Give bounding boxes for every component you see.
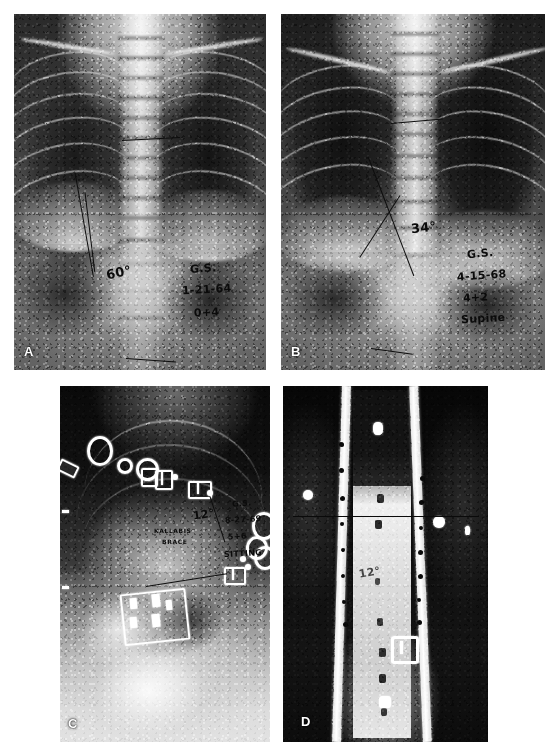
brace-left-tick-2 <box>62 586 69 589</box>
panel-b-initials: G.S. <box>466 246 494 263</box>
brace-divider-1 <box>161 471 163 485</box>
brace-buckle-slot-1 <box>129 598 137 610</box>
panel-d-date: 9-24-69 <box>426 575 454 583</box>
panel-a-initials: G.S. <box>190 261 217 278</box>
brace-divider-2 <box>197 482 199 494</box>
brace-dot-4 <box>245 564 251 570</box>
panel-b[interactable]: 34° G.S. 4-15-68 4+2 Supine B <box>281 14 545 370</box>
panel-d-image: 12° G.S. 9-24-69 D <box>283 386 488 742</box>
panel-b-image: 34° G.S. 4-15-68 4+2 Supine B <box>281 14 545 370</box>
film-grain <box>283 386 488 742</box>
panel-d[interactable]: 12° G.S. 9-24-69 D <box>283 386 488 742</box>
panel-d-initials: G.S. <box>429 564 444 572</box>
panel-c-brace-label-line1: KALLABIS <box>154 527 192 535</box>
brace-buckle-slot-4 <box>151 614 160 628</box>
panel-c-position: SITTING <box>224 548 263 561</box>
panel-b-angle-label: 34° <box>410 218 437 238</box>
brace-ring-2 <box>117 458 133 474</box>
panel-c-image: 12° KALLABIS BRACE G.S. 8-27-69 5+6 SITT… <box>60 386 270 742</box>
brace-divider-3 <box>232 568 234 580</box>
panel-a-letter: A <box>24 344 33 359</box>
panel-c-age: 5+6 <box>228 532 247 544</box>
panel-b-age: 4+2 <box>463 290 489 306</box>
brace-dot-1 <box>172 474 178 480</box>
brace-buckle-slot-3 <box>151 594 160 608</box>
brace-left-tick-1 <box>62 510 69 513</box>
panel-b-letter: B <box>291 344 300 359</box>
reference-hairline <box>293 516 479 517</box>
brace-buckle-slot-2 <box>129 617 137 629</box>
panel-c-letter: C <box>68 716 77 731</box>
panel-d-letter: D <box>301 714 310 729</box>
brace-buckle-slot-5 <box>165 600 172 611</box>
panel-c-brace-label-line2: BRACE <box>162 538 187 546</box>
brace-plate-4 <box>224 567 246 585</box>
panel-c[interactable]: 12° KALLABIS BRACE G.S. 8-27-69 5+6 SITT… <box>60 386 270 742</box>
panel-b-position: Supine <box>461 311 506 328</box>
panel-a[interactable]: 60° G.S. 1-21-64 0+4 A <box>14 14 266 370</box>
brace-plate-2 <box>155 470 173 490</box>
panel-a-date: 1-21-64 <box>182 282 232 299</box>
film-grain <box>14 14 266 370</box>
brace-ring-1 <box>87 436 113 466</box>
radiograph-figure: 60° G.S. 1-21-64 0+4 A <box>0 0 548 753</box>
panel-a-age: 0+4 <box>194 306 220 322</box>
panel-c-angle-label: 12° <box>192 507 216 525</box>
panel-c-date: 8-27-69 <box>225 514 262 527</box>
panel-c-initials: G.S. <box>232 498 252 510</box>
panel-a-image: 60° G.S. 1-21-64 0+4 A <box>14 14 266 370</box>
brace-dot-2 <box>207 490 213 496</box>
